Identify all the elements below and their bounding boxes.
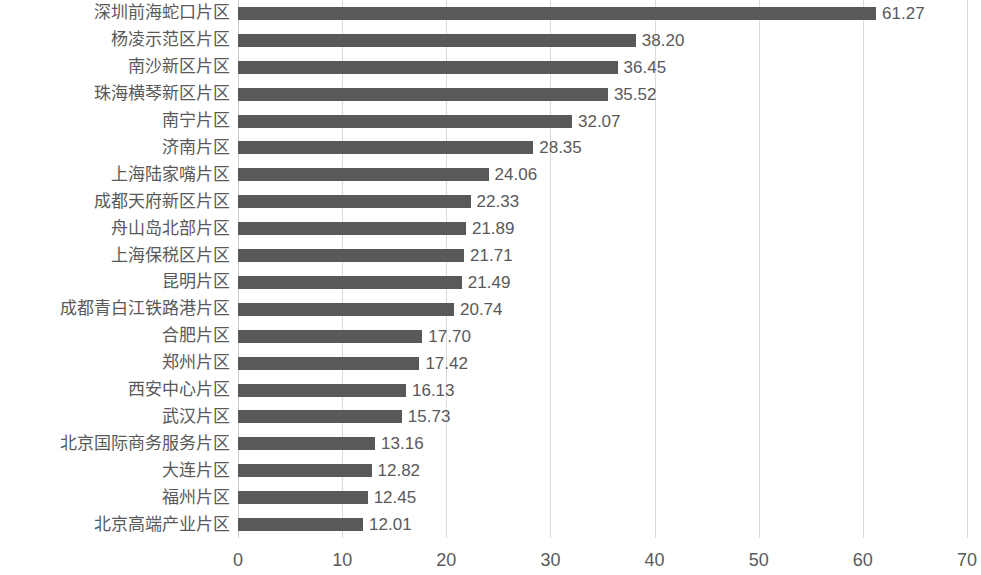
bar-value-label: 22.33	[477, 193, 520, 210]
bar-value-label: 17.70	[428, 328, 471, 345]
category-label: 杨凌示范区片区	[0, 31, 230, 48]
bar[interactable]	[238, 249, 464, 262]
bar-value-label: 61.27	[882, 5, 925, 22]
bar-row: 17.70	[238, 325, 967, 347]
category-label: 济南片区	[0, 139, 230, 156]
bar-row: 12.82	[238, 460, 967, 482]
category-label: 南宁片区	[0, 112, 230, 129]
category-label: 合肥片区	[0, 327, 230, 344]
bar[interactable]	[238, 330, 422, 343]
bar-row: 35.52	[238, 83, 967, 105]
bar[interactable]	[238, 88, 608, 101]
category-label: 成都青白江铁路港片区	[0, 300, 230, 317]
bar-value-label: 15.73	[408, 408, 451, 425]
bar-row: 36.45	[238, 56, 967, 78]
value-axis: 010203040506070	[238, 538, 967, 575]
bar-row: 15.73	[238, 406, 967, 428]
x-tick-label: 30	[540, 551, 560, 569]
bar[interactable]	[238, 141, 533, 154]
bar-value-label: 21.49	[468, 274, 511, 291]
bar[interactable]	[238, 384, 406, 397]
bar-value-label: 16.13	[412, 382, 455, 399]
bar-value-label: 38.20	[642, 32, 685, 49]
x-tick-label: 60	[853, 551, 873, 569]
bar-value-label: 12.01	[369, 516, 412, 533]
bar-row: 28.35	[238, 137, 967, 159]
bar-value-label: 21.89	[472, 220, 515, 237]
bar[interactable]	[238, 115, 572, 128]
bar[interactable]	[238, 168, 489, 181]
bar-row: 38.20	[238, 29, 967, 51]
bar[interactable]	[238, 222, 466, 235]
bar-row: 20.74	[238, 298, 967, 320]
bar[interactable]	[238, 34, 636, 47]
bar[interactable]	[238, 195, 471, 208]
category-label: 昆明片区	[0, 273, 230, 290]
category-label: 珠海横琴新区片区	[0, 85, 230, 102]
x-tick-label: 0	[233, 551, 243, 569]
bar-row: 16.13	[238, 379, 967, 401]
bar-value-label: 24.06	[495, 166, 538, 183]
category-label: 舟山岛北部片区	[0, 220, 230, 237]
bar-value-label: 17.42	[425, 355, 468, 372]
bar-row: 21.49	[238, 271, 967, 293]
x-tick-label: 10	[332, 551, 352, 569]
category-label: 北京高端产业片区	[0, 516, 230, 533]
bar[interactable]	[238, 464, 372, 477]
bar[interactable]	[238, 437, 375, 450]
x-tick-label: 20	[436, 551, 456, 569]
bar-value-label: 12.45	[374, 489, 417, 506]
category-label: 西安中心片区	[0, 381, 230, 398]
bar-value-label: 12.82	[378, 462, 421, 479]
bar[interactable]	[238, 518, 363, 531]
category-label: 上海保税区片区	[0, 247, 230, 264]
bar-value-label: 21.71	[470, 247, 513, 264]
bar-value-label: 28.35	[539, 139, 582, 156]
bar-row: 21.71	[238, 245, 967, 267]
plot-area: 61.2738.2036.4535.5232.0728.3524.0622.33…	[238, 0, 967, 538]
x-tick-label: 50	[749, 551, 769, 569]
bar-row: 13.16	[238, 433, 967, 455]
x-tick-label: 70	[957, 551, 977, 569]
category-label: 南沙新区片区	[0, 58, 230, 75]
bar-row: 12.45	[238, 487, 967, 509]
category-axis: 深圳前海蛇口片区杨凌示范区片区南沙新区片区珠海横琴新区片区南宁片区济南片区上海陆…	[0, 0, 230, 538]
gridline-70	[967, 0, 968, 538]
bar[interactable]	[238, 61, 618, 74]
bar-row: 61.27	[238, 2, 967, 24]
bar[interactable]	[238, 491, 368, 504]
bar[interactable]	[238, 276, 462, 289]
bar[interactable]	[238, 410, 402, 423]
bar[interactable]	[238, 357, 419, 370]
category-label: 上海陆家嘴片区	[0, 166, 230, 183]
category-label: 北京国际商务服务片区	[0, 435, 230, 452]
bar-row: 21.89	[238, 218, 967, 240]
bar-value-label: 36.45	[624, 59, 667, 76]
bar[interactable]	[238, 7, 876, 20]
bar-row: 32.07	[238, 110, 967, 132]
category-label: 武汉片区	[0, 408, 230, 425]
category-label: 福州片区	[0, 489, 230, 506]
bar-value-label: 35.52	[614, 86, 657, 103]
bar-row: 24.06	[238, 164, 967, 186]
bar-row: 12.01	[238, 514, 967, 536]
category-label: 深圳前海蛇口片区	[0, 4, 230, 21]
category-label: 大连片区	[0, 462, 230, 479]
bar-row: 22.33	[238, 191, 967, 213]
category-label: 成都天府新区片区	[0, 193, 230, 210]
bar-series: 61.2738.2036.4535.5232.0728.3524.0622.33…	[238, 0, 967, 538]
bar[interactable]	[238, 303, 454, 316]
bar-value-label: 32.07	[578, 113, 621, 130]
bar-value-label: 20.74	[460, 301, 503, 318]
bar-chart: 深圳前海蛇口片区杨凌示范区片区南沙新区片区珠海横琴新区片区南宁片区济南片区上海陆…	[0, 0, 981, 575]
bar-row: 17.42	[238, 352, 967, 374]
category-label: 郑州片区	[0, 354, 230, 371]
x-tick-label: 40	[645, 551, 665, 569]
bar-value-label: 13.16	[381, 435, 424, 452]
